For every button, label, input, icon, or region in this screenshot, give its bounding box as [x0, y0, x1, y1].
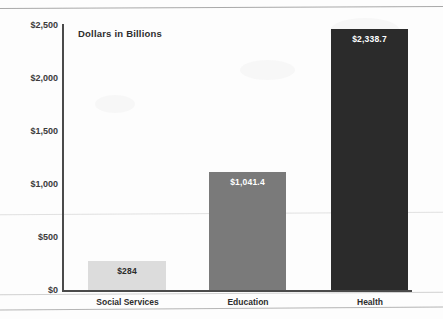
bar-social-services: $284 [88, 261, 166, 290]
y-axis-line [62, 24, 64, 292]
scan-artifact-line-baseline [0, 292, 443, 296]
bar-health: $2,338.7 [331, 29, 408, 290]
y-axis-tick-labels: $2,500 $2,000 $1,500 $1,000 $500 $0 [0, 0, 58, 319]
chart-title: Dollars in Billions [78, 28, 162, 39]
y-tick-label: $500 [6, 232, 58, 242]
y-tick-label: $0 [6, 285, 58, 295]
paper-artifact [240, 60, 295, 80]
bar-value-label: $2,338.7 [331, 34, 408, 44]
y-tick-label: $1,000 [6, 179, 58, 189]
x-category-label-health: Health [327, 297, 413, 307]
paper-artifact [95, 95, 135, 113]
x-category-label-education: Education [205, 297, 291, 307]
y-tick-label: $2,500 [6, 20, 58, 30]
bar-education: $1,041.4 [209, 172, 286, 290]
y-tick-label: $2,000 [6, 73, 58, 83]
bar-value-label: $1,041.4 [209, 177, 286, 187]
x-axis-line [62, 290, 412, 292]
scan-artifact-line-top [0, 6, 443, 9]
bar-value-label: $284 [88, 266, 166, 276]
y-tick-label: $1,500 [6, 126, 58, 136]
chart-screenshot: $2,500 $2,000 $1,500 $1,000 $500 $0 Doll… [0, 0, 443, 319]
x-category-label-social-services: Social Services [80, 297, 175, 307]
scan-artifact-line-bottom [0, 306, 443, 310]
